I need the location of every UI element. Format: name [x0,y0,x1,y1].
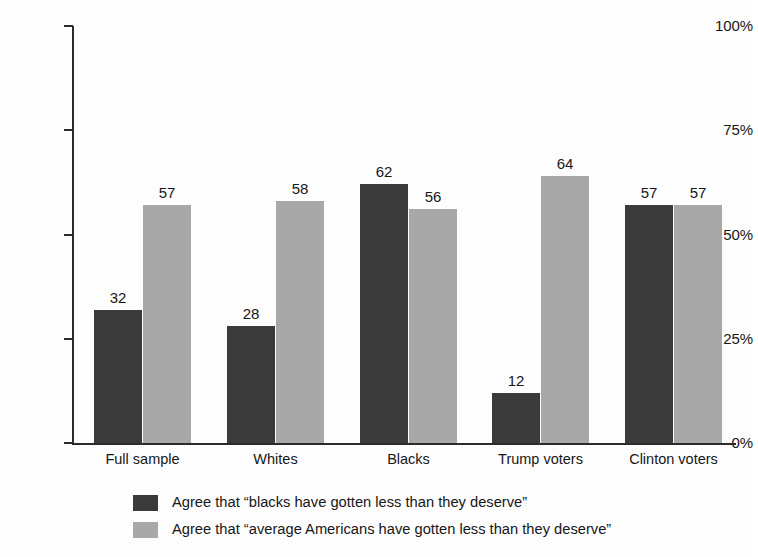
x-axis-category-label: Clinton voters [585,451,758,467]
bar-value-label: 57 [690,185,707,200]
legend: Agree that “blacks have gotten less than… [133,489,611,543]
bar-value-label: 32 [110,290,127,305]
bar-group: 3257 [94,26,191,443]
bar: 56 [409,209,457,443]
legend-item: Agree that “blacks have gotten less than… [133,489,611,516]
legend-item: Agree that “average Americans have gotte… [133,516,611,543]
bar-group: 1264 [492,26,589,443]
bar-value-label: 12 [508,373,525,388]
legend-swatch [133,495,158,511]
legend-swatch [133,522,158,538]
bar-value-label: 57 [159,185,176,200]
bar: 57 [674,205,722,443]
legend-label: Agree that “average Americans have gotte… [172,521,611,538]
bar-group: 5757 [625,26,722,443]
bar-value-label: 28 [243,306,260,321]
x-axis-line [72,443,736,445]
bar: 57 [625,205,673,443]
bar: 12 [492,393,540,443]
bar-group: 6256 [360,26,457,443]
bar-value-label: 62 [376,164,393,179]
bar-value-label: 56 [425,189,442,204]
bar: 64 [541,176,589,443]
bar: 32 [94,310,142,443]
bar: 57 [143,205,191,443]
bar-value-label: 64 [557,156,574,171]
bar: 62 [360,184,408,443]
bar-value-label: 58 [292,181,309,196]
plot-area: 32572858625612645757 [72,26,735,443]
bar: 58 [276,201,324,443]
bar-group: 2858 [227,26,324,443]
bar-value-label: 57 [641,185,658,200]
legend-label: Agree that “blacks have gotten less than… [172,494,527,511]
bar: 28 [227,326,275,443]
